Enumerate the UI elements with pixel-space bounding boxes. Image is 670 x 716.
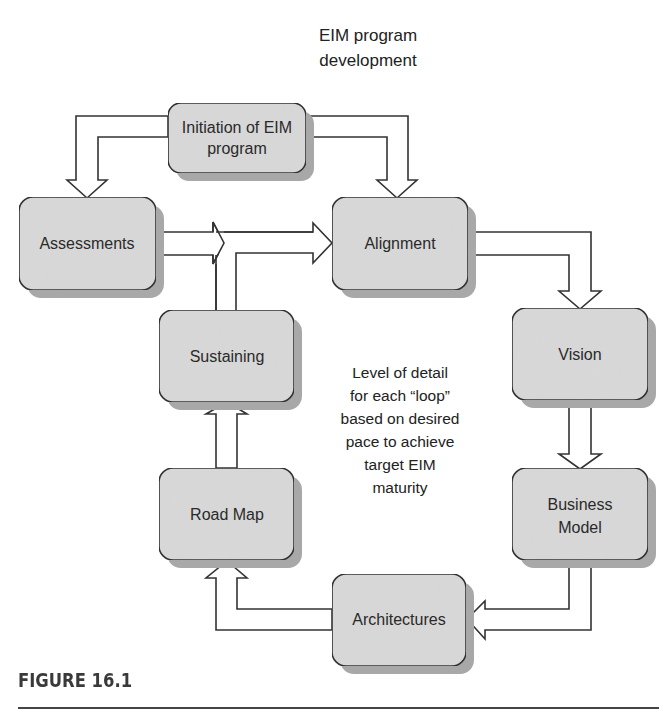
- svg-text:EIM program: EIM program: [319, 26, 417, 45]
- svg-text:Road Map: Road Map: [190, 506, 264, 523]
- arrow-initiation-to-assessments: [67, 116, 168, 198]
- svg-text:development: development: [319, 51, 417, 70]
- arrow-alignment-to-vision: [468, 232, 601, 309]
- svg-text:Architectures: Architectures: [352, 611, 445, 628]
- svg-text:maturity: maturity: [372, 479, 427, 496]
- arrow-initiation-to-alignment: [305, 116, 417, 198]
- svg-text:for each “loop”: for each “loop”: [350, 387, 450, 404]
- svg-text:program: program: [207, 140, 267, 157]
- node-architectures: Architectures: [332, 574, 474, 674]
- svg-text:Sustaining: Sustaining: [190, 348, 265, 365]
- svg-text:Level of detail: Level of detail: [352, 364, 448, 381]
- arrow-architectures-to-road-map: [206, 561, 332, 630]
- svg-text:Assessments: Assessments: [39, 235, 134, 252]
- node-assessments: Assessments: [19, 197, 164, 298]
- arrow-road-map-to-sustaining: [206, 402, 247, 468]
- node-road-map: Road Map: [159, 468, 302, 568]
- center-note: Level of detail for each “loop” based on…: [341, 364, 460, 496]
- svg-text:pace to achieve: pace to achieve: [346, 433, 455, 450]
- figure-caption: FIGURE 16.1: [18, 668, 132, 692]
- svg-text:Alignment: Alignment: [364, 235, 436, 252]
- svg-text:Vision: Vision: [558, 346, 601, 363]
- node-sustaining: Sustaining: [159, 310, 302, 410]
- svg-text:Initiation of EIM: Initiation of EIM: [182, 119, 292, 136]
- diagram-title: EIM program development: [319, 26, 417, 70]
- svg-text:based on desired: based on desired: [341, 410, 460, 427]
- node-alignment: Alignment: [332, 197, 476, 298]
- node-business-model: Business Model: [512, 468, 656, 568]
- svg-text:Business: Business: [548, 496, 613, 513]
- eim-program-diagram: EIM program development Initiation of EI…: [0, 0, 670, 716]
- svg-text:target EIM: target EIM: [364, 456, 436, 473]
- node-initiation: Initiation of EIM program: [168, 103, 314, 181]
- arrow-vision-to-business-model: [559, 400, 601, 469]
- svg-text:Model: Model: [558, 519, 602, 536]
- arrow-business-model-to-architectures: [467, 560, 591, 639]
- caption-rule: [18, 707, 659, 709]
- node-vision: Vision: [512, 308, 656, 408]
